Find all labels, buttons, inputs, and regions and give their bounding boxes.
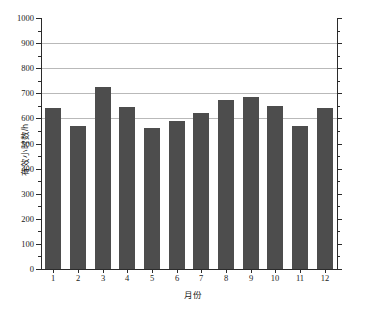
- bar: [119, 107, 135, 269]
- bar: [267, 106, 283, 269]
- y-axis-line: [41, 18, 42, 269]
- bar: [169, 121, 185, 269]
- x-tick-label: 1: [51, 274, 55, 283]
- x-tick-label: 11: [296, 274, 304, 283]
- bar: [292, 126, 308, 269]
- x-tick-label: 7: [199, 274, 203, 283]
- gridline: [41, 68, 337, 69]
- y-tick-label: 600: [21, 114, 34, 123]
- bar: [45, 108, 61, 269]
- x-tick-label: 5: [150, 274, 154, 283]
- y-tick-label: 200: [21, 215, 34, 224]
- x-tick-label: 12: [321, 274, 330, 283]
- y-tick-label: 0: [30, 265, 34, 274]
- y-tick-label: 100: [21, 240, 34, 249]
- bar: [193, 113, 209, 269]
- x-axis-title: 月份: [0, 288, 386, 300]
- x-tick-label: 4: [125, 274, 129, 283]
- y-tick-label: 700: [21, 89, 34, 98]
- gridline: [41, 93, 337, 94]
- plot-area: 01002003004005006007008009001000: [41, 18, 337, 269]
- x-tick-label: 10: [271, 274, 280, 283]
- bar: [95, 87, 111, 269]
- x-tick-label: 6: [175, 274, 179, 283]
- bar: [70, 126, 86, 269]
- bar: [317, 108, 333, 269]
- y-tick-label: 900: [21, 39, 34, 48]
- gridline: [41, 118, 337, 119]
- x-tick-label: 3: [101, 274, 105, 283]
- x-tick-label: 8: [224, 274, 228, 283]
- y-tick-label: 300: [21, 189, 34, 198]
- x-axis-line: [41, 269, 338, 270]
- y-tick-label: 1000: [17, 14, 34, 23]
- gridline: [41, 43, 337, 44]
- bar-chart: 01002003004005006007008009001000 有效小时数/h…: [0, 0, 386, 313]
- bar: [218, 100, 234, 269]
- bar: [243, 97, 259, 269]
- bar: [144, 128, 160, 269]
- y-axis-right-line: [337, 18, 338, 269]
- y-axis-title: 有效小时数/h: [18, 124, 30, 176]
- x-tick-label: 9: [249, 274, 253, 283]
- x-tick-label: 2: [76, 274, 80, 283]
- y-tick-label: 800: [21, 64, 34, 73]
